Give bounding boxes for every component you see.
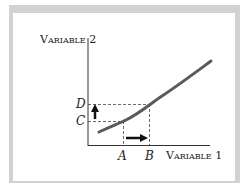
y-axis-label: Variable 2 xyxy=(40,34,96,45)
tick-a: A xyxy=(118,150,127,162)
tick-c: C xyxy=(76,115,85,127)
tick-d: D xyxy=(76,98,86,110)
up-arrow-icon xyxy=(91,104,99,119)
x-axis-label: Variable 1 xyxy=(166,150,222,161)
tick-b: B xyxy=(145,150,154,162)
right-arrow-icon xyxy=(126,134,148,142)
